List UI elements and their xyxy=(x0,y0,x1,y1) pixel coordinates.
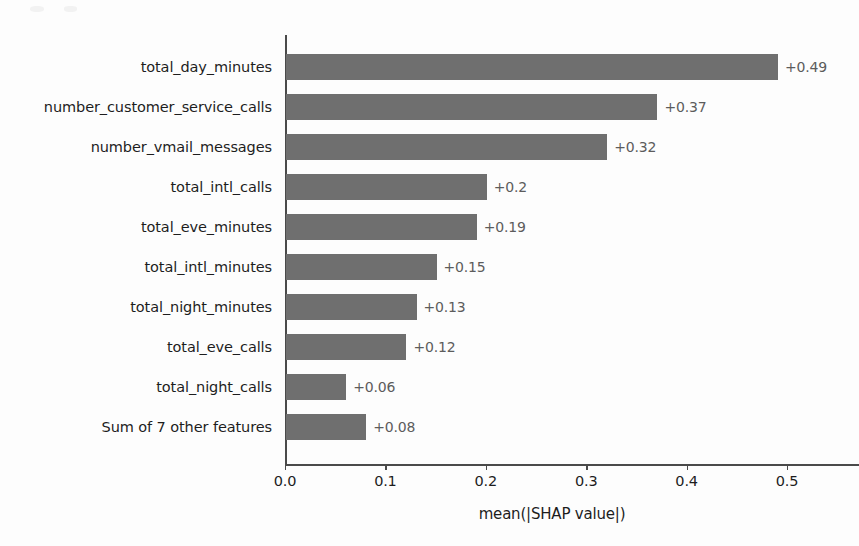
x-axis-tick-mark xyxy=(687,464,688,470)
bar-row: total_intl_calls+0.2 xyxy=(0,167,859,207)
bar-value-label: +0.49 xyxy=(785,59,827,75)
bar-and-value: +0.37 xyxy=(286,87,706,127)
x-axis-tick-mark xyxy=(285,464,286,470)
bar xyxy=(286,214,477,240)
bar-and-value: +0.12 xyxy=(286,327,455,367)
bar-value-label: +0.37 xyxy=(664,99,706,115)
bar-row: total_day_minutes+0.49 xyxy=(0,47,859,87)
scan-artifact xyxy=(30,6,44,12)
x-axis-spine xyxy=(285,464,859,466)
bar xyxy=(286,254,437,280)
bar-row: total_eve_minutes+0.19 xyxy=(0,207,859,247)
y-axis-tick-label: total_intl_minutes xyxy=(0,247,272,287)
bar xyxy=(286,134,607,160)
y-axis-tick-label: total_eve_minutes xyxy=(0,207,272,247)
y-axis-tick-label: number_vmail_messages xyxy=(0,127,272,167)
bar-and-value: +0.13 xyxy=(286,287,465,327)
bar-row: total_night_calls+0.06 xyxy=(0,367,859,407)
x-axis-tick-label: 0.0 xyxy=(255,473,315,489)
x-axis-tick-mark xyxy=(385,464,386,470)
bar-row: total_night_minutes+0.13 xyxy=(0,287,859,327)
scan-artifact xyxy=(64,6,77,12)
bar-value-label: +0.06 xyxy=(353,379,395,395)
bar-value-label: +0.13 xyxy=(424,299,466,315)
bar-and-value: +0.2 xyxy=(286,167,527,207)
y-axis-tick-label: total_day_minutes xyxy=(0,47,272,87)
bar-row: number_vmail_messages+0.32 xyxy=(0,127,859,167)
bar xyxy=(286,414,366,440)
x-axis-tick-mark xyxy=(586,464,587,470)
bar-value-label: +0.32 xyxy=(614,139,656,155)
y-axis-tick-label: total_night_calls xyxy=(0,367,272,407)
bar-and-value: +0.06 xyxy=(286,367,395,407)
bar-row: total_eve_calls+0.12 xyxy=(0,327,859,367)
y-axis-tick-label: total_eve_calls xyxy=(0,327,272,367)
y-axis-tick-label: total_intl_calls xyxy=(0,167,272,207)
x-axis-tick-label: 0.1 xyxy=(355,473,415,489)
bar-row: total_intl_minutes+0.15 xyxy=(0,247,859,287)
bar-value-label: +0.19 xyxy=(484,219,526,235)
bar-and-value: +0.49 xyxy=(286,47,827,87)
x-axis-tick-label: 0.2 xyxy=(456,473,516,489)
bar-value-label: +0.12 xyxy=(413,339,455,355)
x-axis-tick-label: 0.3 xyxy=(556,473,616,489)
bar xyxy=(286,174,487,200)
bar-row: Sum of 7 other features+0.08 xyxy=(0,407,859,447)
bar xyxy=(286,374,346,400)
x-axis-tick-label: 0.4 xyxy=(657,473,717,489)
bar-value-label: +0.15 xyxy=(444,259,486,275)
x-axis-tick-mark xyxy=(486,464,487,470)
bar-value-label: +0.08 xyxy=(373,419,415,435)
bar xyxy=(286,294,417,320)
x-axis-title: mean(|SHAP value|) xyxy=(285,505,819,523)
bar xyxy=(286,334,406,360)
bar-and-value: +0.08 xyxy=(286,407,415,447)
bar-row: number_customer_service_calls+0.37 xyxy=(0,87,859,127)
bar-value-label: +0.2 xyxy=(494,179,527,195)
x-axis-tick-label: 0.5 xyxy=(757,473,817,489)
bar-and-value: +0.15 xyxy=(286,247,486,287)
y-axis-tick-label: number_customer_service_calls xyxy=(0,87,272,127)
shap-feature-importance-chart: total_day_minutes+0.49number_customer_se… xyxy=(0,0,859,546)
bar-and-value: +0.32 xyxy=(286,127,656,167)
y-axis-tick-label: total_night_minutes xyxy=(0,287,272,327)
bar-and-value: +0.19 xyxy=(286,207,526,247)
bar xyxy=(286,54,778,80)
x-axis-tick-mark xyxy=(787,464,788,470)
y-axis-tick-label: Sum of 7 other features xyxy=(0,407,272,447)
bar xyxy=(286,94,657,120)
